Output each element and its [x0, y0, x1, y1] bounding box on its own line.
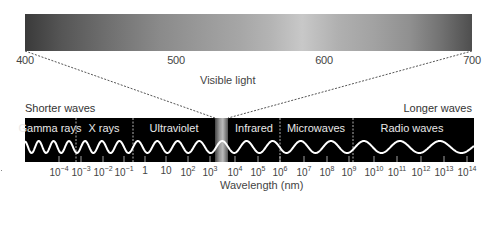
artifact-dot	[1, 170, 2, 171]
connector-line-right	[228, 51, 472, 118]
axis-tick-label: 1	[142, 165, 148, 176]
band-label: Infrared	[235, 122, 273, 134]
axis-tick-label: 104	[227, 165, 242, 178]
axis-tick-label: 109	[341, 165, 356, 178]
axis-tick-label: 1014	[458, 165, 477, 178]
band-label: Gamma rays	[19, 122, 82, 134]
band-label: Ultraviolet	[150, 122, 199, 134]
axis-tick-label: 107	[296, 165, 311, 178]
band-label: X rays	[88, 122, 119, 134]
axis-tick-label: 1013	[435, 165, 454, 178]
connector-line-left	[25, 51, 215, 118]
axis-tick-label: 1011	[388, 165, 406, 178]
visible-strip	[215, 118, 228, 162]
axis-tick-label: 10−1	[114, 165, 133, 178]
axis-tick-label: 1012	[412, 165, 431, 178]
axis-tick-label: 10−3	[71, 165, 90, 178]
axis-tick-label: 103	[202, 165, 217, 178]
axis-tick-label: 10−2	[93, 165, 112, 178]
axis-tick-label: 102	[180, 165, 195, 178]
wave-line	[25, 141, 474, 153]
axis-tick-label: 105	[250, 165, 265, 178]
band-label: Radio waves	[381, 122, 444, 134]
band-label: Microwaves	[287, 122, 345, 134]
axis-tick-label: 10	[160, 165, 171, 176]
axis-tick-label: 1010	[365, 165, 384, 178]
axis-title: Wavelength (nm)	[220, 179, 303, 191]
axis-tick-label: 106	[272, 165, 287, 178]
axis-tick-label: 10−4	[49, 165, 68, 178]
axis-tick-label: 108	[319, 165, 334, 178]
